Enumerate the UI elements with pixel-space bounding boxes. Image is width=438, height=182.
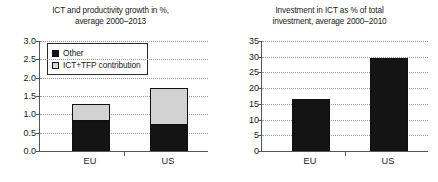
x-axis-label-us-right: US: [368, 156, 408, 166]
chart-title-right-line2: investment, average 2000–2010: [225, 16, 434, 27]
legend-label-ict-tfp: ICT+TFP contribution: [63, 60, 141, 70]
y-axis-tick-label: 0.5: [23, 128, 36, 138]
y-axis-tick-mark: [258, 41, 262, 42]
y-axis-tick-mark: [258, 151, 262, 152]
y-axis-tick-mark: [36, 41, 40, 42]
gridline: [40, 41, 208, 42]
x-axis-tick-mark: [345, 151, 346, 156]
legend-item-ict-tfp: ICT+TFP contribution: [52, 59, 141, 71]
legend-item-other: Other: [52, 47, 141, 59]
chart-title-right: Investment in ICT as % of total investme…: [225, 5, 434, 27]
bar-segment: [370, 58, 408, 151]
x-axis-label-eu-left: EU: [70, 156, 110, 166]
y-axis-tick-mark: [258, 88, 262, 89]
y-axis-tick-mark: [36, 114, 40, 115]
chart-panel-investment-in-ict: Investment in ICT as % of total investme…: [219, 0, 438, 182]
figure: ICT and productivity growth in %, averag…: [0, 0, 438, 182]
gridline: [262, 41, 428, 42]
plot-area-right: [261, 41, 428, 152]
y-axis-tick-mark: [36, 59, 40, 60]
y-axis-labels-right: 05101520253035: [225, 41, 259, 151]
y-axis-tick-label: 1.0: [23, 109, 36, 119]
chart-panel-ict-productivity-growth: ICT and productivity growth in %, averag…: [0, 0, 219, 182]
y-axis-tick-label: 2.5: [23, 54, 36, 64]
gridline: [40, 78, 208, 79]
bar-us: [370, 58, 408, 151]
bar-segment: [292, 99, 330, 151]
chart-title-right-line1: Investment in ICT as % of total: [225, 5, 434, 16]
y-axis-tick-label: 0.0: [23, 146, 36, 156]
bar-segment: [72, 104, 110, 120]
bar-segment: [150, 88, 188, 125]
y-axis-tick-label: 3.0: [23, 36, 36, 46]
bar-eu: [292, 99, 330, 151]
y-axis-tick-label: 2.0: [23, 73, 36, 83]
chart-title-left: ICT and productivity growth in %, averag…: [6, 5, 215, 27]
bar-us: [150, 88, 188, 151]
legend-swatch-ict-tfp-icon: [52, 62, 59, 69]
y-axis-tick-mark: [36, 151, 40, 152]
y-axis-tick-mark: [258, 57, 262, 58]
y-axis-labels-left: 0.00.51.01.52.02.53.0: [2, 41, 36, 151]
plot-area-left: Other ICT+TFP contribution: [39, 41, 208, 152]
legend-swatch-other-icon: [52, 50, 59, 57]
y-axis-tick-mark: [36, 96, 40, 97]
gridline: [40, 59, 208, 60]
x-axis-tick-mark: [124, 151, 125, 156]
y-axis-tick-mark: [258, 72, 262, 73]
chart-title-left-line1: ICT and productivity growth in %,: [6, 5, 215, 16]
y-axis-tick-mark: [36, 133, 40, 134]
y-axis-tick-mark: [258, 120, 262, 121]
bar-eu: [72, 104, 110, 151]
y-axis-tick-mark: [258, 135, 262, 136]
x-axis-label-us-left: US: [148, 156, 188, 166]
chart-title-left-line2: average 2000–2013: [6, 16, 215, 27]
x-axis-label-eu-right: EU: [290, 156, 330, 166]
y-axis-tick-mark: [258, 104, 262, 105]
y-axis-tick-mark: [36, 78, 40, 79]
bar-segment: [72, 121, 110, 151]
legend-label-other: Other: [63, 48, 83, 58]
bar-segment: [150, 125, 188, 151]
y-axis-tick-label: 1.5: [23, 91, 36, 101]
